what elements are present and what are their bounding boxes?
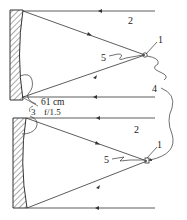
top-reflected-ray-upper <box>23 11 145 55</box>
top-concave-mirror <box>10 10 23 100</box>
top-mirror-system: 1 2 5 4 <box>10 9 173 160</box>
bottom-focus-leader <box>147 147 157 158</box>
distance-leader <box>22 97 38 106</box>
bottom-label-beam: 2 <box>134 124 139 135</box>
top-reflected-ray-lower <box>23 55 145 97</box>
arrow-icon <box>96 116 100 120</box>
top-focus-cable <box>147 56 166 80</box>
arrow-icon <box>93 95 97 99</box>
optical-diagram: 1 2 5 4 61 cm 3 f/1.5 <box>0 0 187 220</box>
f-number-label: f/1.5 <box>44 107 61 117</box>
arrow-icon <box>95 206 99 210</box>
bottom-mirror-system: 1 2 5 <box>13 116 162 210</box>
shared-labels: 61 cm 3 f/1.5 <box>22 97 65 117</box>
top-label-focus: 1 <box>158 34 163 45</box>
bottom-detector-lead <box>112 157 144 161</box>
bottom-label-focus: 1 <box>157 139 162 150</box>
top-label-beam: 2 <box>128 15 133 26</box>
arrow-icon <box>96 185 100 189</box>
mirror-id-label: 3 <box>31 107 36 117</box>
bottom-label-detector: 5 <box>104 154 109 165</box>
bottom-reflected-ray-upper <box>26 118 147 161</box>
arrow-icon <box>95 141 100 145</box>
label-link: 4 <box>152 83 157 94</box>
distance-label: 61 cm <box>41 97 65 107</box>
arrow-icon <box>93 75 97 79</box>
arrow-icon <box>98 9 102 13</box>
bottom-reflected-ray-lower <box>27 161 147 208</box>
arrow-icon <box>87 32 92 36</box>
top-label-detector: 5 <box>101 52 106 63</box>
bottom-concave-mirror <box>13 118 27 208</box>
top-detector-lead <box>109 54 143 60</box>
top-focus-leader <box>146 42 157 54</box>
